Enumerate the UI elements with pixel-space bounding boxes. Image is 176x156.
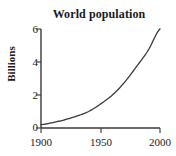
world-population-chart: World population Billions 6 4 2 0 1900 1… <box>0 0 176 156</box>
axis-lines <box>41 29 160 128</box>
plot-area <box>0 0 176 156</box>
x-axis-ticks <box>41 128 160 133</box>
population-curve <box>41 29 160 125</box>
y-axis-ticks <box>36 29 41 128</box>
